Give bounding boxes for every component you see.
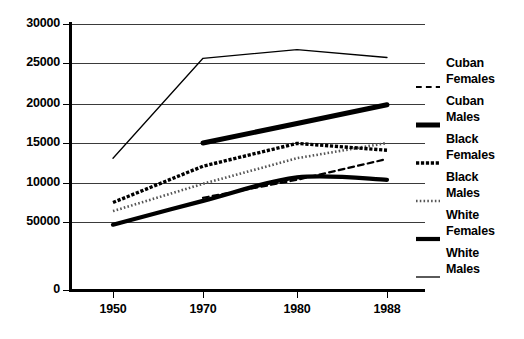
legend-label-line1: Cuban bbox=[446, 56, 495, 72]
legend-label-line2: Females bbox=[446, 148, 495, 164]
legend-swatch-fine-dotted bbox=[415, 193, 441, 205]
legend-label: WhiteFemales bbox=[446, 208, 495, 239]
legend-label-line1: White bbox=[446, 246, 480, 262]
legend-label-line1: Cuban bbox=[446, 94, 484, 110]
legend-item[interactable]: CubanFemales bbox=[415, 57, 524, 95]
legend-swatch-dashed bbox=[415, 79, 441, 91]
legend-label-line2: Males bbox=[446, 186, 480, 202]
legend-label: BlackFemales bbox=[446, 132, 495, 163]
legend-item[interactable]: WhiteFemales bbox=[415, 209, 524, 247]
series-line-cuban-males bbox=[203, 105, 387, 143]
legend-item[interactable]: BlackMales bbox=[415, 171, 524, 209]
legend-label: CubanMales bbox=[446, 94, 484, 125]
legend-label: BlackMales bbox=[446, 170, 480, 201]
legend-swatch-thick-solid-curve bbox=[415, 231, 441, 243]
legend-swatch-heavy-dotted bbox=[415, 155, 441, 167]
legend-label-line1: Black bbox=[446, 170, 480, 186]
legend-label-line2: Males bbox=[446, 262, 480, 278]
legend-label-line2: Females bbox=[446, 72, 495, 88]
series-line-white-females bbox=[113, 176, 387, 224]
legend-swatch-thin-solid bbox=[415, 269, 441, 281]
legend-label-line1: Black bbox=[446, 132, 495, 148]
legend-item[interactable]: WhiteMales bbox=[415, 247, 524, 285]
legend-label-line1: White bbox=[446, 208, 495, 224]
series-line-black-females bbox=[113, 143, 387, 202]
legend-item[interactable]: BlackFemales bbox=[415, 133, 524, 171]
legend-swatch-thick-solid bbox=[415, 117, 441, 129]
line-chart-figure: 3000025000200001500010000500000 19501970… bbox=[0, 0, 524, 339]
legend-label: WhiteMales bbox=[446, 246, 480, 277]
legend-label-line2: Females bbox=[446, 224, 495, 240]
legend-item[interactable]: CubanMales bbox=[415, 95, 524, 133]
legend-label: CubanFemales bbox=[446, 56, 495, 87]
legend-label-line2: Males bbox=[446, 110, 484, 126]
series-line-white-males bbox=[113, 50, 387, 159]
chart-legend: CubanFemalesCubanMalesBlackFemalesBlackM… bbox=[415, 57, 524, 285]
